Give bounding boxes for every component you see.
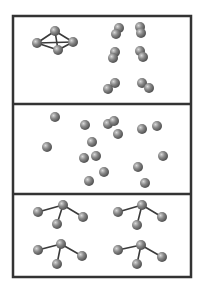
atom — [137, 124, 147, 134]
background — [0, 0, 201, 290]
atom — [144, 83, 154, 93]
single-atom — [152, 121, 162, 131]
atom — [32, 38, 42, 48]
atom — [157, 212, 167, 222]
atom — [68, 37, 78, 47]
atom — [33, 207, 43, 217]
atom — [132, 220, 142, 230]
atom — [50, 26, 60, 36]
single-atom — [79, 153, 89, 163]
atom — [158, 151, 168, 161]
atom — [108, 53, 118, 63]
atom — [78, 212, 88, 222]
single-atom — [113, 129, 123, 139]
atom — [99, 167, 109, 177]
atom — [113, 129, 123, 139]
atom — [157, 252, 167, 262]
single-atom — [109, 116, 119, 126]
atom — [138, 52, 148, 62]
atom — [52, 219, 62, 229]
atom — [84, 176, 94, 186]
atom — [137, 200, 147, 210]
single-atom — [80, 120, 90, 130]
atom — [133, 162, 143, 172]
atom — [33, 245, 43, 255]
single-atom — [50, 112, 60, 122]
single-atom — [84, 176, 94, 186]
single-atom — [91, 151, 101, 161]
atom — [50, 112, 60, 122]
atom — [109, 116, 119, 126]
molecule-diagram — [0, 0, 201, 290]
atom — [58, 200, 68, 210]
atom — [87, 137, 97, 147]
atom — [136, 240, 146, 250]
atom — [80, 120, 90, 130]
atom — [56, 239, 66, 249]
atom — [77, 251, 87, 261]
atom — [111, 29, 121, 39]
single-atom — [158, 151, 168, 161]
atom — [53, 45, 63, 55]
atom — [136, 28, 146, 38]
atom — [113, 245, 123, 255]
single-atom — [140, 178, 150, 188]
single-atom — [99, 167, 109, 177]
single-atom — [87, 137, 97, 147]
atom — [79, 153, 89, 163]
single-atom — [42, 142, 52, 152]
atom — [91, 151, 101, 161]
single-atom — [133, 162, 143, 172]
atom — [42, 142, 52, 152]
atom — [132, 259, 142, 269]
atom — [52, 259, 62, 269]
single-atom — [137, 124, 147, 134]
bond — [37, 42, 73, 43]
atom — [113, 207, 123, 217]
atom — [152, 121, 162, 131]
atom — [103, 84, 113, 94]
atom — [140, 178, 150, 188]
